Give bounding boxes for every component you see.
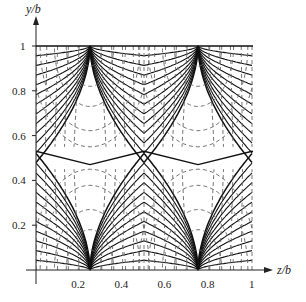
x-axis-arrow-icon (264, 267, 273, 273)
solid-curve (90, 260, 144, 270)
y-tick-label: 0.2 (12, 219, 26, 231)
y-axis-arrow-icon (33, 16, 39, 25)
y-tick-label: 0.8 (12, 85, 26, 97)
solid-curve (144, 46, 198, 56)
x-tick-label: 0.4 (114, 278, 128, 290)
solid-curve (198, 260, 252, 270)
solid-curve (198, 46, 252, 56)
solid-curve (36, 260, 90, 270)
x-axis-label: z/b (276, 263, 291, 277)
x-tick-label: 0.8 (201, 278, 215, 290)
x-tick-label: 0.2 (71, 278, 85, 290)
solid-curve (198, 151, 306, 164)
x-tick-label: 1 (249, 278, 255, 290)
plot-area (0, 46, 306, 270)
y-axis-label: y/b (25, 2, 41, 16)
y-tick-label: 1 (20, 40, 26, 52)
solid-curve (36, 46, 90, 56)
chart: 0.20.40.60.81 0.20.40.60.81 y/b z/b (0, 0, 306, 302)
solid-curve (144, 260, 198, 270)
solid-curve (90, 151, 198, 164)
x-tick-label: 0.6 (158, 278, 172, 290)
x-tick-labels: 0.20.40.60.81 (71, 278, 254, 290)
y-tick-label: 0.6 (12, 130, 26, 142)
solid-curve (0, 151, 90, 164)
y-tick-labels: 0.20.40.60.81 (12, 40, 36, 231)
y-tick-label: 0.4 (12, 174, 26, 186)
solid-curve (90, 46, 144, 56)
